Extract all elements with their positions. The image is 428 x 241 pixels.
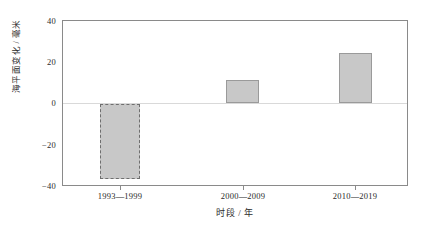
x-tick-label-2010-2019: 2010—2019 [295,192,415,201]
y-tick-label-0: 0 [16,99,56,108]
bar-2010-2019 [339,53,372,103]
x-tick-label-2000-2009: 2000—2009 [183,192,303,201]
y-tick-label-40: 40 [16,17,56,26]
plot-area [62,20,408,186]
y-tick-label-neg40: −40 [16,182,56,191]
y-tick-label-20: 20 [16,58,56,67]
x-tick-mark-2 [243,186,244,190]
y-tick-label-neg20: −20 [16,141,56,150]
x-axis-title: 时段 / 年 [62,209,408,218]
x-tick-label-1993-1999: 1993—1999 [60,192,180,201]
bar-1993-1999 [100,104,140,179]
bar-2000-2009 [226,80,259,103]
x-tick-mark-1 [120,186,121,190]
bar-chart: 海平面变化 / 毫米 40 20 0 −20 −40 1993—1999 200… [0,0,428,241]
x-tick-mark-3 [355,186,356,190]
